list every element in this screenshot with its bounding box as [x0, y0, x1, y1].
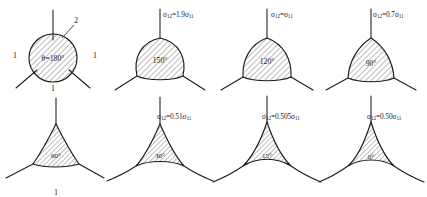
formula-label: σ12=0.51σ11 [157, 112, 191, 121]
panel-4: 90° σ12=0.7σ11 [321, 0, 427, 98]
formula-label: σ12=1.9σ11 [163, 10, 194, 19]
formula-eq: =0.50 [376, 112, 393, 121]
formula-sub-left: 12 [377, 13, 382, 19]
panel-5-graphic: 60° [0, 98, 107, 197]
angle-label: 60° [51, 152, 61, 160]
formula-label: σ12=0.7σ11 [373, 10, 404, 19]
formula-sub-right: 11 [189, 13, 194, 19]
grain-label-1-left: 1 [13, 51, 17, 60]
leader-line-grain-2 [62, 25, 74, 38]
panel-3-graphic: 120° [214, 0, 321, 98]
formula-sub-left: 12 [371, 115, 376, 121]
angle-label: 150° [153, 56, 167, 65]
formula-sub-right: 11 [399, 13, 404, 19]
angle-label: 0° [368, 153, 375, 161]
triple-junction-figure: θ=180° 2 1 1 1 150° σ12=1.9σ11 [0, 0, 427, 197]
panel-2-graphic: 150° [107, 0, 214, 98]
panel-2: 150° σ12=1.9σ11 [107, 0, 214, 98]
angle-label: 90° [366, 59, 377, 68]
grain-label-1-row2: 1 [54, 188, 58, 197]
formula-sub-right: 11 [288, 13, 293, 19]
grain-label-1-right: 1 [93, 51, 97, 60]
formula-sub-right: 11 [186, 115, 191, 121]
panel-1: θ=180° 2 1 1 1 [0, 0, 107, 98]
angle-label: 30° [155, 152, 165, 160]
grain-label-2: 2 [74, 16, 78, 25]
angle-label: θ=180° [42, 54, 65, 63]
formula-eq: =0.7 [382, 10, 395, 19]
formula-label: σ12=0.50σ11 [367, 112, 401, 121]
grain-label-1-bottom: 1 [51, 84, 55, 93]
formula-label: σ12=σ11 [271, 10, 293, 19]
formula-sub-right: 11 [295, 115, 300, 121]
formula-sub-left: 12 [275, 13, 280, 19]
panel-7: 15° σ12=0.505σ11 [214, 98, 321, 197]
formula-sub-left: 12 [167, 13, 172, 19]
particle-shape [33, 124, 79, 167]
formula-sub-left: 12 [161, 115, 166, 121]
formula-eq: =0.51 [166, 112, 183, 121]
formula-eq: =0.505 [271, 112, 291, 121]
angle-label: 120° [260, 57, 274, 66]
formula-label: σ12=0.505σ11 [262, 112, 300, 121]
angle-label: 15° [262, 152, 272, 160]
panel-6: 30° σ12=0.51σ11 [107, 98, 214, 197]
formula-eq: =1.9 [172, 10, 185, 19]
formula-sub-left: 12 [266, 115, 271, 121]
panel-5: 60° 1 σ12=0.57σ11 [0, 98, 107, 197]
panel-3: 120° σ12=σ11 [214, 0, 321, 98]
formula-sub-right: 11 [396, 115, 401, 121]
panel-8: 0° σ12=0.50σ11 [321, 98, 427, 197]
